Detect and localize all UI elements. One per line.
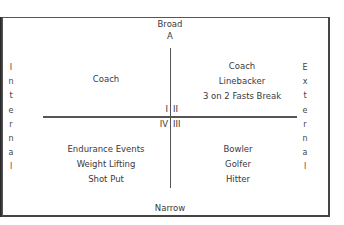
axis-label-internal: I n t e r n a l [6, 61, 16, 175]
quadrant-label-iv: IV [150, 119, 168, 129]
axis-label-broad: Broad [150, 19, 190, 29]
quadrant-label-i: I [158, 104, 168, 114]
quadrant-item: Coach [229, 59, 255, 74]
letter: r [303, 118, 306, 132]
quadrant-bottom-left: Endurance Events Weight Lifting Shot Put [56, 142, 156, 187]
letter: n [8, 75, 13, 89]
letter: t [303, 89, 306, 103]
letter: t [9, 89, 12, 103]
letter: n [302, 132, 307, 146]
axis-letter-a: A [150, 31, 190, 41]
quadrant-item: Golfer [225, 157, 251, 172]
letter: x [303, 75, 308, 89]
letter: a [303, 146, 308, 160]
letter: E [302, 61, 307, 75]
letter: l [304, 160, 306, 174]
letter: n [8, 132, 13, 146]
letter: e [303, 104, 308, 118]
axis-label-narrow: Narrow [140, 203, 200, 213]
quadrant-item: Weight Lifting [77, 157, 136, 172]
letter: I [10, 61, 12, 75]
quadrant-label-iii: III [173, 119, 187, 129]
axis-label-external: E x t e r n a l [300, 61, 310, 175]
quadrant-item: Hitter [226, 172, 250, 187]
letter: e [9, 104, 14, 118]
quadrant-item: Linebacker [219, 74, 265, 89]
quadrant-top-right: Coach Linebacker 3 on 2 Fasts Break [192, 59, 292, 104]
letter: l [10, 160, 12, 174]
quadrant-item: 3 on 2 Fasts Break [203, 89, 281, 104]
vertical-axis-line [170, 48, 172, 188]
quadrant-item: Coach [93, 72, 119, 87]
quadrant-item: Bowler [223, 142, 252, 157]
quadrant-item: Endurance Events [67, 142, 144, 157]
quadrant-item: Shot Put [88, 172, 124, 187]
letter: a [9, 146, 14, 160]
quadrant-bottom-right: Bowler Golfer Hitter [198, 142, 278, 187]
letter: r [9, 118, 12, 132]
quadrant-top-left: Coach [66, 72, 146, 87]
quadrant-label-ii: II [173, 104, 185, 114]
